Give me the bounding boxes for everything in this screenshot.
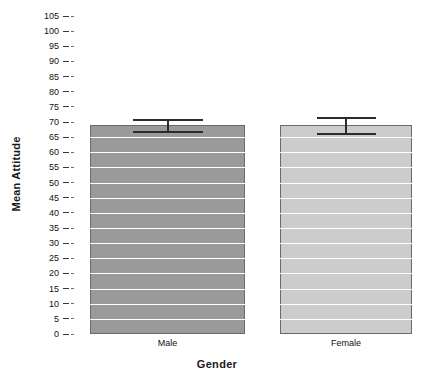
- y-tick-mark: [63, 137, 69, 138]
- y-axis-title-label: Mean Attitude: [10, 137, 22, 212]
- y-tick-label: 20: [49, 267, 63, 279]
- y-axis-title: Mean Attitude: [4, 0, 28, 388]
- y-tick-mark-minor: [71, 182, 74, 183]
- error-stem: [345, 117, 347, 132]
- y-tick-label: 70: [49, 116, 63, 128]
- gridline-50: [88, 183, 414, 184]
- y-tick-mark-minor: [71, 167, 74, 168]
- y-axis: 0510152025303540455055606570758085909510…: [28, 0, 74, 388]
- y-tick-mark-minor: [71, 31, 74, 32]
- y-tick-label: 55: [49, 161, 63, 173]
- y-tick-mark: [63, 61, 69, 62]
- y-tick-mark: [63, 46, 69, 47]
- y-tick-20: 20: [49, 267, 74, 279]
- y-tick-label: 45: [49, 192, 63, 204]
- y-tick-mark-minor: [71, 288, 74, 289]
- y-tick-mark-minor: [71, 243, 74, 244]
- y-tick-label: 75: [49, 101, 63, 113]
- y-tick-100: 100: [44, 25, 74, 37]
- y-tick-mark: [63, 197, 69, 198]
- y-tick-mark: [63, 152, 69, 153]
- y-tick-mark-minor: [71, 91, 74, 92]
- gridline-65: [88, 137, 414, 138]
- error-bar-male: [90, 119, 245, 131]
- gridline-105: [88, 16, 414, 17]
- error-cap-lower: [133, 131, 203, 133]
- y-tick-mark: [63, 16, 69, 17]
- gridline-60: [88, 152, 414, 153]
- gridline-45: [88, 198, 414, 199]
- gridline-55: [88, 167, 414, 168]
- y-tick-mark-minor: [71, 303, 74, 304]
- y-tick-65: 65: [49, 131, 74, 143]
- error-bar-female: [280, 117, 412, 132]
- y-tick-mark: [63, 258, 69, 259]
- gridline-75: [88, 107, 414, 108]
- gridline-100: [88, 31, 414, 32]
- y-tick-mark: [63, 212, 69, 213]
- y-tick-mark: [63, 334, 69, 335]
- error-stem: [167, 119, 169, 131]
- y-tick-mark-minor: [71, 122, 74, 123]
- y-tick-mark-minor: [71, 228, 74, 229]
- y-tick-mark-minor: [71, 152, 74, 153]
- gridline-80: [88, 92, 414, 93]
- y-tick-50: 50: [49, 177, 74, 189]
- gridline-40: [88, 213, 414, 214]
- y-tick-mark: [63, 91, 69, 92]
- y-tick-105: 105: [44, 10, 74, 22]
- y-tick-label: 80: [49, 86, 63, 98]
- y-tick-mark: [63, 228, 69, 229]
- y-tick-mark-minor: [71, 197, 74, 198]
- y-tick-80: 80: [49, 86, 74, 98]
- y-tick-mark-minor: [71, 106, 74, 107]
- bar-chart: Mean Attitude 05101520253035404550556065…: [0, 0, 434, 388]
- x-tick-label-female: Female: [280, 338, 412, 348]
- y-tick-mark: [63, 122, 69, 123]
- y-tick-30: 30: [49, 237, 74, 249]
- gridline-85: [88, 77, 414, 78]
- x-axis-tick-labels: Male Female: [88, 338, 414, 354]
- y-tick-label: 100: [44, 25, 63, 37]
- y-tick-label: 35: [49, 222, 63, 234]
- y-tick-mark: [63, 318, 69, 319]
- y-tick-mark-minor: [71, 46, 74, 47]
- y-tick-label: 65: [49, 131, 63, 143]
- y-tick-70: 70: [49, 116, 74, 128]
- y-tick-mark-minor: [71, 273, 74, 274]
- plot-area: [88, 16, 414, 334]
- y-tick-35: 35: [49, 222, 74, 234]
- gridline-30: [88, 243, 414, 244]
- gridline-5: [88, 319, 414, 320]
- y-tick-95: 95: [49, 40, 74, 52]
- y-tick-mark: [63, 303, 69, 304]
- y-tick-label: 50: [49, 177, 63, 189]
- y-tick-mark: [63, 288, 69, 289]
- y-tick-90: 90: [49, 55, 74, 67]
- y-tick-mark-minor: [71, 258, 74, 259]
- y-tick-10: 10: [49, 298, 74, 310]
- y-tick-25: 25: [49, 252, 74, 264]
- y-tick-mark: [63, 76, 69, 77]
- y-tick-mark-minor: [71, 61, 74, 62]
- y-tick-label: 0: [54, 328, 63, 340]
- y-tick-label: 30: [49, 237, 63, 249]
- y-tick-mark-minor: [71, 334, 74, 335]
- y-tick-60: 60: [49, 146, 74, 158]
- y-tick-mark-minor: [71, 318, 74, 319]
- gridline-10: [88, 304, 414, 305]
- y-tick-mark-minor: [71, 137, 74, 138]
- gridline-90: [88, 61, 414, 62]
- y-tick-label: 85: [49, 71, 63, 83]
- y-tick-label: 105: [44, 10, 63, 22]
- y-tick-0: 0: [54, 328, 74, 340]
- y-tick-mark: [63, 182, 69, 183]
- y-tick-15: 15: [49, 283, 74, 295]
- y-tick-label: 25: [49, 252, 63, 264]
- y-tick-mark: [63, 243, 69, 244]
- y-tick-label: 60: [49, 146, 63, 158]
- y-tick-55: 55: [49, 161, 74, 173]
- gridline-95: [88, 46, 414, 47]
- y-tick-75: 75: [49, 101, 74, 113]
- y-tick-mark: [63, 106, 69, 107]
